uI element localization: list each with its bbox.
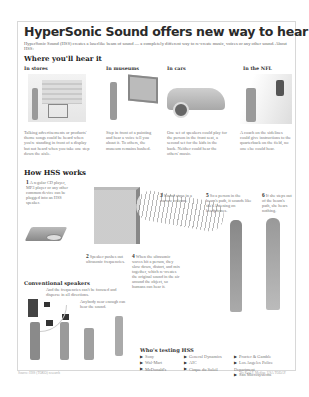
hss-speaker-panel xyxy=(94,187,140,244)
conventional-text-1: And the frequencies can't be focused and… xyxy=(46,287,118,297)
store-shelf-icon xyxy=(42,80,82,104)
infographic-panel: HyperSonic Sound offers new way to hear … xyxy=(17,21,296,371)
section-label-cars: In cars xyxy=(167,65,186,71)
step-1: 1A regular CD player, MP3 player or any … xyxy=(26,180,72,205)
section-label-nfl: In the NFL xyxy=(243,65,272,71)
shopper-figure-icon xyxy=(32,88,38,120)
museums-caption: Step in front of a painting and hear a v… xyxy=(106,130,156,151)
tester-item: McDonald's xyxy=(140,367,180,373)
where-heading: Where you'll hear it xyxy=(24,54,102,63)
conventional-text-2: Anybody near enough can hear the sound. xyxy=(80,299,128,309)
credit-note: By Karl F. Medina, USA TODAY xyxy=(240,371,286,375)
stores-illustration xyxy=(28,74,86,122)
testing-list-col-1: Sony Wal-Mart McDonald's xyxy=(140,354,180,373)
woman-in-beam-figure-icon xyxy=(230,220,242,312)
visitor-figure-icon xyxy=(110,82,117,120)
cars-illustration xyxy=(167,84,225,118)
step-4: 4When the ultrasonic waves hit a person,… xyxy=(132,254,182,289)
testing-list-col-2: General Dynamics AIC Cirque du Soleil xyxy=(184,354,230,373)
listener-figure-icon-1 xyxy=(30,322,40,360)
nfl-caption: A coach on the sidelines could give inst… xyxy=(240,130,292,151)
page-title: HyperSonic Sound offers new way to hear xyxy=(24,24,308,39)
listener-figure-icon-3 xyxy=(84,328,94,360)
source-note: Source: HSS (TOKO) research xyxy=(18,371,60,375)
painting-icon xyxy=(128,74,158,103)
intro-text: HyperSonic Sound (HSS) creates a laserli… xyxy=(24,41,292,51)
wheel-icon xyxy=(173,102,189,118)
section-label-museums: In museums xyxy=(106,65,139,71)
step-6: 6If she steps out of the beam's path, sh… xyxy=(262,193,294,213)
step-3: 3Sound stays in a narrow column. xyxy=(160,193,200,203)
tester-item: Cirque du Soleil xyxy=(184,367,230,373)
cars-caption: One set of speakers could play for the p… xyxy=(167,130,227,156)
conventional-heading: Conventional speakers xyxy=(24,280,90,286)
shopping-cart-icon xyxy=(48,104,68,118)
nfl-illustration xyxy=(240,74,292,124)
listener-figure-icon-4 xyxy=(115,316,123,356)
testing-heading: Who's testing HSS xyxy=(140,347,194,353)
section-label-stores: In stores xyxy=(24,65,48,71)
stores-caption: Talking advertisements or products' them… xyxy=(24,130,92,156)
cd-disc-icon xyxy=(46,234,62,241)
step-5: 5So a person in the beam's path, it soun… xyxy=(206,193,252,213)
museums-illustration xyxy=(106,74,158,122)
step-2: 2Speaker pushes out ultrasonic frequenci… xyxy=(86,254,126,264)
coach-figure-icon xyxy=(246,88,256,122)
quarterback-figure-icon xyxy=(276,80,284,96)
listener-figure-icon-2 xyxy=(60,322,69,360)
how-heading: How HSS works xyxy=(24,168,86,177)
woman-outside-beam-figure-icon xyxy=(266,218,280,310)
